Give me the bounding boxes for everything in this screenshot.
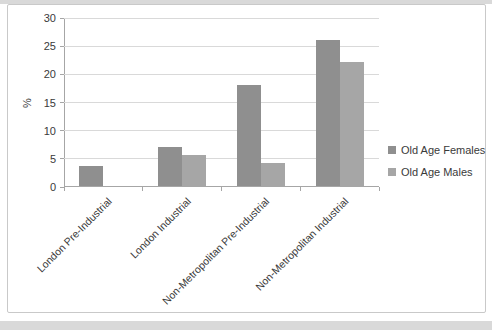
chart-card: % 051015202530 London Pre-IndustrialLond… [7, 4, 486, 313]
x-axis-label: London Industrial [127, 195, 192, 260]
y-tick-label: 30 [24, 11, 56, 25]
bar [340, 62, 364, 186]
bar [316, 40, 340, 186]
y-tick-label: 25 [24, 39, 56, 53]
x-tick-mark [379, 187, 380, 191]
y-tick-mark [60, 130, 64, 131]
legend-item: Old Age Females [388, 144, 485, 156]
bar [261, 163, 285, 186]
x-tick-mark [221, 187, 222, 191]
bar [79, 166, 103, 186]
bar [182, 155, 206, 186]
y-tick-mark [60, 158, 64, 159]
legend-label: Old Age Females [401, 144, 485, 156]
legend-item: Old Age Males [388, 166, 485, 178]
y-tick-label: 0 [24, 180, 56, 194]
legend-label: Old Age Males [401, 166, 473, 178]
x-axis-label: Non-Metropolitan Industrial [252, 195, 350, 293]
plot-area [64, 18, 379, 187]
legend-swatch [388, 146, 396, 154]
y-tick-label: 5 [24, 152, 56, 166]
page-bottom-edge-band [0, 321, 492, 330]
y-tick-mark [60, 74, 64, 75]
y-tick-label: 20 [24, 67, 56, 81]
legend: Old Age FemalesOld Age Males [388, 144, 485, 188]
y-tick-mark [60, 18, 64, 19]
bar [158, 147, 182, 186]
y-tick-mark [60, 46, 64, 47]
y-tick-label: 10 [24, 124, 56, 138]
x-tick-mark [300, 187, 301, 191]
y-tick-mark [60, 102, 64, 103]
x-axis-label: London Pre-Industrial [34, 195, 113, 274]
legend-swatch [388, 168, 396, 176]
x-tick-mark [64, 187, 65, 191]
gridline [64, 18, 379, 19]
y-tick-label: 15 [24, 96, 56, 110]
x-tick-mark [142, 187, 143, 191]
bar [237, 85, 261, 186]
